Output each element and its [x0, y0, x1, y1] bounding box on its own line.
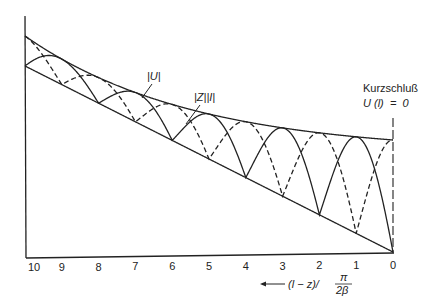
x-axis-label: (l − z)/ [288, 278, 320, 290]
x-tick-label: 3 [280, 260, 286, 272]
current-label-pointer [186, 105, 200, 124]
standing-wave-figure: 109876543210 |U| |Z||I| Kurzschluß U (l)… [0, 0, 434, 305]
x-tick-label: 0 [390, 259, 396, 271]
x-tick-label: 1 [353, 259, 359, 271]
x-tick-label: 5 [206, 260, 212, 272]
y-axis [25, 16, 26, 258]
x-tick-label: 7 [132, 260, 138, 272]
voltage-curve-label: |U| [147, 70, 161, 82]
curves [25, 36, 393, 252]
x-axis-fraction-numerator: π [340, 271, 348, 283]
x-tick-label: 10 [28, 261, 40, 273]
x-axis [26, 253, 394, 258]
voltage-magnitude-curve [25, 55, 393, 252]
x-axis-arrow-head [260, 282, 266, 287]
upper-envelope [25, 36, 393, 140]
short-circuit-title: Kurzschluß [363, 82, 418, 94]
x-tick-label: 9 [59, 261, 65, 273]
current-curve-label: |Z||I| [194, 91, 215, 103]
x-tick-label: 4 [243, 260, 249, 272]
short-circuit-condition: U (l) = 0 [363, 97, 409, 109]
x-tick-label: 6 [169, 260, 175, 272]
x-tick-label: 2 [316, 259, 322, 271]
x-tick-label: 8 [96, 261, 102, 273]
x-axis-fraction-denominator: 2β [335, 284, 349, 296]
